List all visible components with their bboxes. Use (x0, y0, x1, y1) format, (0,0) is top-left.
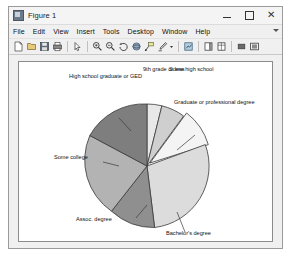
menu-item-insert[interactable]: Insert (77, 28, 95, 35)
menu-item-help[interactable]: Help (195, 28, 210, 35)
toolbar-separator (178, 41, 179, 52)
menu-item-edit[interactable]: Edit (33, 28, 45, 35)
zoom-in-icon[interactable] (91, 41, 103, 53)
window-title: Figure 1 (28, 11, 56, 20)
hide-plot-tools-icon[interactable] (235, 41, 247, 53)
pie-label-assoc-degree: Assoc. degree (76, 216, 112, 222)
pie-chart (19, 62, 273, 242)
insert-legend-icon[interactable] (215, 41, 227, 53)
insert-colorbar-icon[interactable] (202, 41, 214, 53)
zoom-out-icon[interactable] (104, 41, 116, 53)
brush-dropdown-icon[interactable] (169, 41, 174, 53)
axes-area: 9th grade or less Some high school High … (18, 61, 273, 242)
rotate-3d-icon[interactable] (130, 41, 142, 53)
maximize-button[interactable] (238, 7, 260, 23)
pie-label-graduate-degree: Graduate or professional degree (174, 99, 255, 105)
save-figure-icon[interactable] (38, 41, 50, 53)
pie-label-some-high-school: Some high school (169, 66, 213, 72)
toolbar-separator (198, 41, 199, 52)
matlab-figure-icon (13, 10, 24, 21)
pie-label-some-college: Some college (54, 154, 88, 160)
brush-select-icon[interactable] (156, 41, 168, 53)
print-figure-icon[interactable] (51, 41, 63, 53)
pie-label-bachelors-degree: Bachelor's degree (166, 230, 211, 236)
new-figure-icon[interactable] (12, 41, 24, 53)
toolbar (9, 39, 282, 55)
menu-item-desktop[interactable]: Desktop (128, 28, 154, 35)
link-plot-icon[interactable] (182, 41, 194, 53)
open-file-icon[interactable] (25, 41, 37, 53)
figure-window: Figure 1 ✕ File Edit View Insert Tools D… (8, 6, 283, 249)
edit-plot-arrow-icon[interactable] (71, 41, 83, 53)
chevron-down-icon[interactable] (273, 29, 279, 32)
data-cursor-icon[interactable] (143, 41, 155, 53)
title-bar: Figure 1 ✕ (9, 7, 282, 25)
menu-item-file[interactable]: File (13, 28, 25, 35)
window-controls: ✕ (216, 7, 282, 23)
minimize-button[interactable] (216, 7, 238, 23)
toolbar-separator (87, 41, 88, 52)
toolbar-separator (67, 41, 68, 52)
menu-item-tools[interactable]: Tools (103, 28, 120, 35)
menu-bar: File Edit View Insert Tools Desktop Wind… (9, 25, 282, 39)
show-plot-tools-icon[interactable] (248, 41, 260, 53)
pie-label-hs-graduate: High school graduate or GED (69, 73, 142, 79)
menu-item-window[interactable]: Window (162, 28, 188, 35)
menu-item-view[interactable]: View (53, 28, 68, 35)
close-button[interactable]: ✕ (260, 7, 282, 23)
pan-icon[interactable] (117, 41, 129, 53)
figure-canvas: 9th grade or less Some high school High … (9, 55, 282, 248)
toolbar-separator (231, 41, 232, 52)
